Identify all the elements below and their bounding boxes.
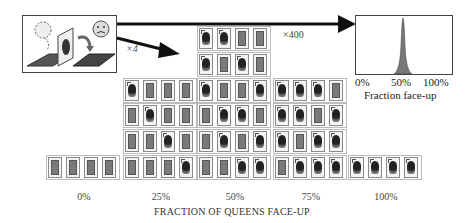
card-face-down-icon	[143, 131, 157, 152]
queen-card-face-up-icon	[143, 105, 157, 126]
card-face-down-icon	[235, 28, 249, 49]
queen-card-face-up-icon	[235, 54, 249, 75]
card-face-down-icon	[179, 80, 193, 101]
group-label-50: 50%	[205, 191, 265, 202]
queen-card-face-up-icon	[275, 105, 289, 126]
card-face-down-icon	[179, 105, 193, 126]
queen-card-face-up-icon	[350, 157, 364, 178]
arrow-right-icon	[338, 15, 356, 33]
queen-card-face-up-icon	[293, 80, 307, 101]
multiplier-small: ×4	[126, 43, 138, 54]
queen-card-face-up-icon	[293, 105, 307, 126]
queen-card-face-up-icon	[404, 157, 418, 178]
card-face-down-icon	[179, 131, 193, 152]
card-face-down-icon	[102, 157, 116, 178]
card-face-down-icon	[199, 131, 213, 152]
card-face-down-icon	[253, 105, 267, 126]
card-face-down-icon	[293, 131, 307, 152]
card-face-down-icon	[143, 80, 157, 101]
card-face-down-icon	[84, 157, 98, 178]
card-face-down-icon	[161, 157, 175, 178]
group-label-75: 75%	[281, 191, 341, 202]
card-face-down-icon	[311, 105, 325, 126]
queen-card-face-up-icon	[253, 157, 267, 178]
multiplier-large: ×400	[283, 29, 304, 40]
queen-card-face-up-icon	[199, 28, 213, 49]
card-face-down-icon	[217, 54, 231, 75]
card-face-down-icon	[48, 157, 62, 178]
queen-card-face-up-icon	[217, 28, 231, 49]
queen-card-face-up-icon	[161, 131, 175, 152]
queen-card-face-up-icon	[275, 80, 289, 101]
queen-card-face-up-icon	[217, 105, 231, 126]
group-label-100: 100%	[356, 191, 416, 202]
queen-card-face-up-icon	[368, 157, 382, 178]
histogram-peak-icon	[356, 16, 452, 74]
queen-card-face-up-icon	[199, 80, 213, 101]
queen-card-face-up-icon	[125, 80, 139, 101]
arrow-diagonal-icon	[158, 42, 180, 58]
card-face-down-icon	[161, 80, 175, 101]
queen-card-face-up-icon	[329, 157, 343, 178]
x-axis-label: FRACTION OF QUEENS FACE-UP	[154, 206, 310, 217]
card-face-down-icon	[66, 157, 80, 178]
queen-card-face-up-icon	[217, 131, 231, 152]
hist-xlabel: Fraction face-up	[364, 89, 436, 101]
queen-card-face-up-icon	[253, 131, 267, 152]
queen-card-face-up-icon	[275, 131, 289, 152]
card-face-down-icon	[235, 80, 249, 101]
card-face-down-icon	[217, 80, 231, 101]
card-face-down-icon	[125, 131, 139, 152]
queen-card-face-up-icon	[235, 105, 249, 126]
card-face-down-icon	[143, 157, 157, 178]
card-face-down-icon	[125, 105, 139, 126]
queen-card-face-up-icon	[235, 157, 249, 178]
queen-card-face-up-icon	[179, 157, 193, 178]
queen-card-face-up-icon	[329, 105, 343, 126]
queen-card-face-up-icon	[293, 157, 307, 178]
queen-card-face-up-icon	[311, 157, 325, 178]
card-face-down-icon	[217, 157, 231, 178]
queen-card-face-up-icon	[311, 80, 325, 101]
hist-xtick-0: 0%	[355, 76, 370, 88]
card-face-down-icon	[235, 131, 249, 152]
group-label-25: 25%	[131, 191, 191, 202]
queen-card-face-up-icon	[329, 131, 343, 152]
card-face-down-icon	[199, 105, 213, 126]
queen-card-face-up-icon	[253, 80, 267, 101]
queen-card-face-up-icon	[386, 157, 400, 178]
hist-xtick-100: 100%	[423, 76, 449, 88]
card-face-down-icon	[161, 105, 175, 126]
histogram-inset	[355, 15, 453, 75]
queen-card-face-up-icon	[199, 54, 213, 75]
group-label-0: 0%	[54, 191, 114, 202]
card-face-down-icon	[253, 28, 267, 49]
card-face-down-icon	[125, 157, 139, 178]
card-face-down-icon	[253, 54, 267, 75]
card-face-down-icon	[275, 157, 289, 178]
card-face-down-icon	[199, 157, 213, 178]
queen-card-face-up-icon	[311, 131, 325, 152]
hist-xtick-50: 50%	[391, 76, 411, 88]
card-face-down-icon	[329, 80, 343, 101]
